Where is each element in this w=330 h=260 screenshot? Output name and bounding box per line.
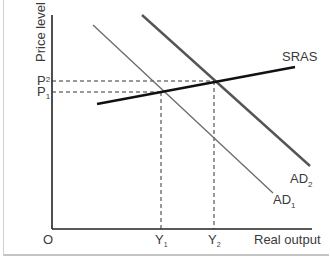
p1-label: P1: [37, 84, 51, 101]
ad-as-diagram: Price level P2 P1 SRAS AD2 AD1 O Y1 Y2 R…: [0, 0, 330, 260]
x-axis-label: Real output: [254, 232, 321, 247]
origin-label: O: [43, 232, 53, 247]
y2-label: Y2: [208, 232, 221, 248]
y1-label: Y1: [155, 232, 168, 248]
sras-curve: [97, 67, 295, 104]
ad1-label: AD1: [273, 192, 296, 210]
ad2-label: AD2: [290, 171, 313, 189]
sras-label: SRAS: [282, 49, 318, 64]
y-axis-label: Price level: [33, 2, 48, 62]
